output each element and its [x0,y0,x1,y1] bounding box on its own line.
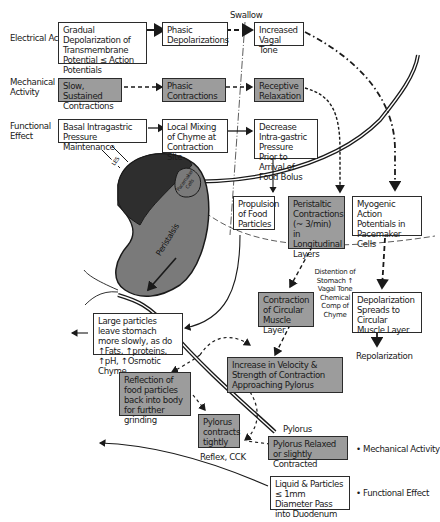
box-myogenic-potentials: Myogenic Action Potentials in Pacemaker … [352,196,422,236]
row-label-functional: Functional Effect [10,121,55,141]
box-increase-velocity: Increase in Velocity & Strength of Contr… [227,357,343,393]
box-peristaltic-contractions: Peristaltic Contractions (~ 3/min) in Lo… [288,196,345,249]
box-contraction-circular: Contraction of Circular Muscle Layer [258,292,314,327]
box-increased-vagal-tone: Increased Vagal Tone [254,22,304,46]
box-large-particles: Large particles leave stomach more slowl… [93,313,183,355]
box-phasic-depolarizations: Phasic Depolarizations [162,22,228,46]
box-slow-sustained-contractions: Slow, Sustained Contractions [58,78,122,102]
box-pylorus-relaxed: Pylorus Relaxed or slightly Contracted [268,436,348,460]
reflex-cck-annotation: Reflex, CCK [200,452,246,462]
box-gradual-depolarization: Gradual Depolarization of Transmembrane … [58,22,147,64]
swallow-label: Swallow [230,10,262,20]
box-phasic-contractions: Phasic Contractions [162,78,226,102]
box-receptive-relaxation: Receptive Relaxation [254,78,304,102]
box-depolarization-spreads: Depolarization Spreads to Circular Muscl… [352,292,422,333]
pylorus-label: Pylorus [283,424,312,434]
legend-mechanical-activity: Mechanical Activity [356,444,440,454]
box-propulsion: Propulsion of Food Particles [233,196,275,230]
box-liquid-particles: Liquid & Particles ≤ 1mm Diameter Pass i… [270,476,350,510]
box-local-mixing: Local Mixing of Chyme at Contraction Sit… [162,119,228,153]
legend-functional-effect: Functional Effect [356,488,429,498]
box-reflection: Reflection of food particles back into b… [119,372,191,416]
box-pylorus-contracts: Pylorus contracts tightly [198,414,240,448]
box-basal-pressure: Basal Intragastric Pressure Maintenance [58,119,147,143]
repolarization-label: Repolarization [356,351,413,361]
box-decrease-pressure: Decrease Intra-gastric Pressure Prior to… [254,119,318,159]
row-label-mechanical: Mechanical Activity [10,77,60,97]
